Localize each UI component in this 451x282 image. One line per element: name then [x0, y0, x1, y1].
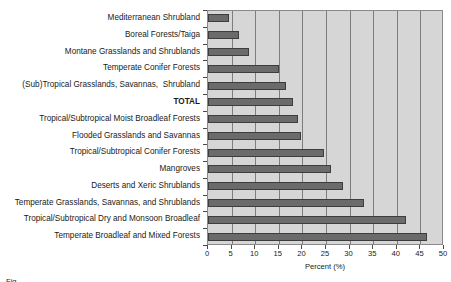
bar-row [208, 61, 442, 77]
y-tick [203, 111, 207, 112]
bar [208, 31, 239, 39]
category-label: Temperate Broadleaf and Mixed Forests [54, 228, 200, 244]
category-label: Tropical/Subtropical Moist Broadleaf For… [39, 111, 200, 127]
bar-row [208, 162, 442, 178]
bars-layer [208, 11, 442, 244]
category-labels: Mediterranean ShrublandBoreal Forests/Ta… [0, 10, 204, 245]
y-tick [203, 44, 207, 45]
x-tick-label: 5 [219, 249, 243, 258]
bar [208, 149, 324, 157]
x-tick-label: 30 [337, 249, 361, 258]
x-tick-label: 25 [313, 249, 337, 258]
y-tick [203, 161, 207, 162]
y-tick [203, 94, 207, 95]
x-tick-label: 10 [242, 249, 266, 258]
bar-row [208, 11, 442, 27]
bar-row [208, 95, 442, 111]
bar [208, 115, 298, 123]
bar [208, 65, 279, 73]
plot-area [207, 10, 443, 245]
category-label: (Sub)Tropical Grasslands, Savannas, Shru… [22, 77, 200, 93]
bar-row [208, 145, 442, 161]
bar-row [208, 45, 442, 61]
x-tick-label: 45 [407, 249, 431, 258]
bar-row [208, 229, 442, 245]
y-tick [203, 144, 207, 145]
bar [208, 98, 293, 106]
bar [208, 82, 286, 90]
bar-row [208, 179, 442, 195]
bar [208, 48, 249, 56]
figure-caption-partial: Fig… [6, 277, 24, 282]
y-tick [203, 178, 207, 179]
bar-chart: Mediterranean ShrublandBoreal Forests/Ta… [0, 0, 451, 282]
category-label: Deserts and Xeric Shrublands [91, 178, 200, 194]
bar [208, 132, 301, 140]
x-tick-label: 35 [360, 249, 384, 258]
x-tick-label: 0 [195, 249, 219, 258]
category-label: Mangroves [159, 161, 200, 177]
category-label: Tropical/Subtropical Conifer Forests [70, 144, 200, 160]
category-label: Temperate Conifer Forests [103, 60, 200, 76]
bar [208, 14, 229, 22]
bar [208, 182, 343, 190]
x-tick-label: 50 [431, 249, 451, 258]
x-tick-label: 20 [289, 249, 313, 258]
y-tick [203, 211, 207, 212]
bar-row [208, 28, 442, 44]
bar [208, 199, 364, 207]
y-tick [203, 27, 207, 28]
y-tick [203, 77, 207, 78]
y-tick [203, 228, 207, 229]
y-tick [203, 195, 207, 196]
y-tick [203, 10, 207, 11]
category-label: Boreal Forests/Taiga [125, 27, 200, 43]
category-label: Tropical/Subtropical Dry and Monsoon Bro… [24, 211, 200, 227]
bar-row [208, 196, 442, 212]
bar-row [208, 212, 442, 228]
bar [208, 233, 427, 241]
bar-row [208, 78, 442, 94]
x-tick-label: 15 [266, 249, 290, 258]
category-label: Montane Grasslands and Shrublands [65, 44, 200, 60]
x-tick-label: 40 [384, 249, 408, 258]
y-tick [203, 60, 207, 61]
bar-row [208, 112, 442, 128]
bar [208, 165, 331, 173]
x-axis-title: Percent (%) [207, 262, 443, 271]
category-label: TOTAL [173, 94, 200, 110]
category-label: Mediterranean Shrubland [108, 10, 200, 26]
category-label: Temperate Grasslands, Savannas, and Shru… [15, 195, 200, 211]
y-tick [203, 128, 207, 129]
bar-row [208, 129, 442, 145]
bar [208, 216, 406, 224]
category-label: Flooded Grasslands and Savannas [72, 128, 200, 144]
